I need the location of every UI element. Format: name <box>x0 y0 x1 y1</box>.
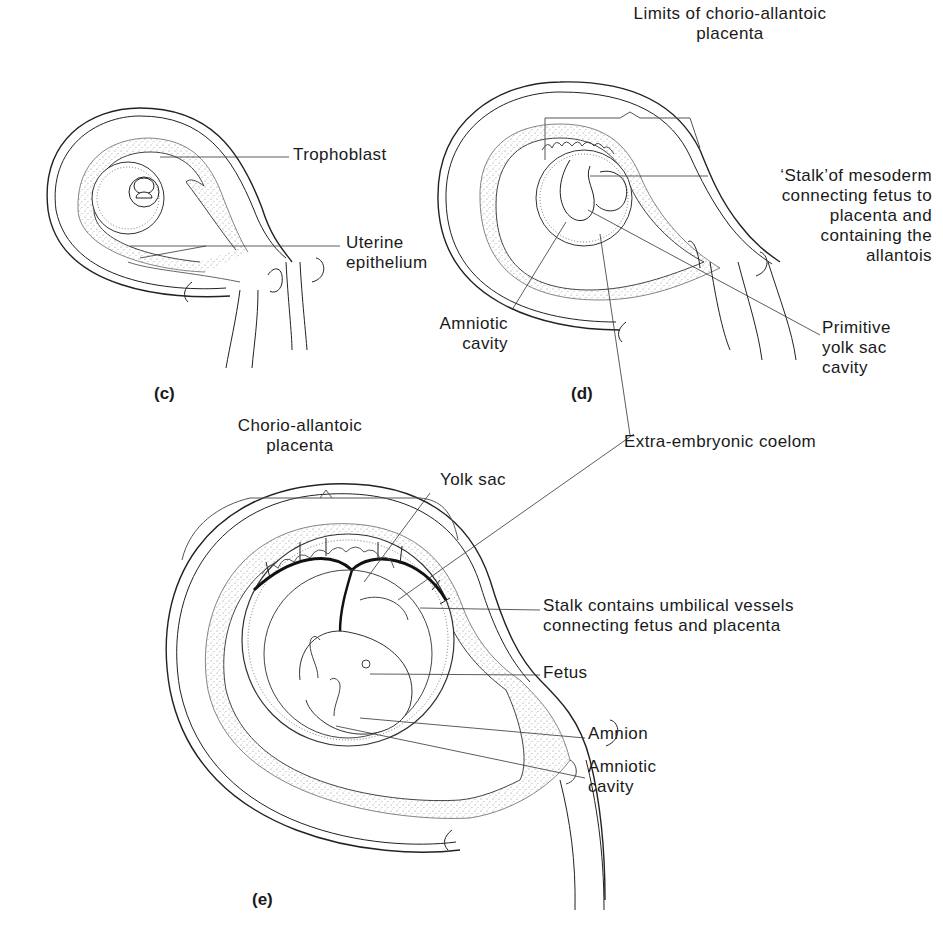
label-uterine-epithelium: Uterine epithelium <box>346 233 428 273</box>
panel-label-e: (e) <box>252 890 273 910</box>
label-yolk-sac: Yolk sac <box>440 470 506 490</box>
label-extra-embryonic-coelom: Extra-embryonic coelom <box>624 432 816 452</box>
panel-c-drawing <box>47 108 324 368</box>
label-stalk-umbilical-vessels: Stalk contains umbilical vessels connect… <box>543 596 794 636</box>
label-amnion: Amnion <box>588 724 648 744</box>
label-amniotic-cavity-e: Amniotic cavity <box>588 757 656 797</box>
label-chorio-allantoic-placenta: Chorio-allantoic placenta <box>220 416 380 456</box>
label-amniotic-cavity-d: Amniotic cavity <box>420 314 508 354</box>
label-fetus: Fetus <box>543 663 588 683</box>
label-trophoblast: Trophoblast <box>293 145 387 165</box>
label-stalk-of-mesoderm: ‘Stalk’of mesoderm connecting fetus to p… <box>700 166 932 266</box>
panel-label-c: (c) <box>154 384 175 404</box>
panel-e-drawing <box>166 484 618 910</box>
label-limits-of-chorio-allantoic-placenta: Limits of chorio-allantoic placenta <box>605 4 855 44</box>
panel-label-d: (d) <box>571 384 593 404</box>
label-primitive-yolk-sac-cavity: Primitive yolk sac cavity <box>822 318 891 378</box>
